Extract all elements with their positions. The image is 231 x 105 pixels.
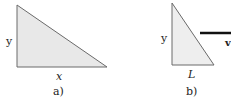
label-l-b: L (188, 69, 195, 80)
label-y-b: y (161, 33, 167, 44)
label-v: v (225, 38, 231, 48)
triangle-a (17, 5, 107, 67)
caption-a: a) (53, 86, 64, 97)
label-x-a: x (56, 71, 62, 82)
label-y-a: y (6, 36, 12, 47)
caption-b: b) (186, 86, 197, 97)
